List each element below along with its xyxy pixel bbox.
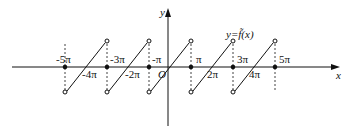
tick-label: 4π bbox=[249, 68, 261, 80]
tick-label: 5π bbox=[279, 53, 291, 65]
tick-label: 3π bbox=[237, 53, 249, 65]
y-axis-label: y bbox=[159, 6, 165, 18]
tick-label: -π bbox=[152, 53, 162, 65]
tick-label: 2π bbox=[207, 68, 219, 80]
tick-label: -3π bbox=[110, 53, 125, 65]
tick-label: π bbox=[196, 53, 202, 65]
tick-label: -5π bbox=[56, 53, 71, 65]
tick-label: -2π bbox=[125, 68, 140, 80]
origin-label: O bbox=[158, 68, 166, 80]
y-axis-arrow-icon bbox=[165, 8, 171, 17]
function-label: y=f̃(x) bbox=[225, 28, 254, 41]
x-axis-label: x bbox=[335, 69, 341, 81]
tick-label: -4π bbox=[82, 68, 97, 80]
function-graph: -5π -3π -π π 3π 5π -4π -2π 2π 4π O y x y… bbox=[0, 0, 349, 140]
